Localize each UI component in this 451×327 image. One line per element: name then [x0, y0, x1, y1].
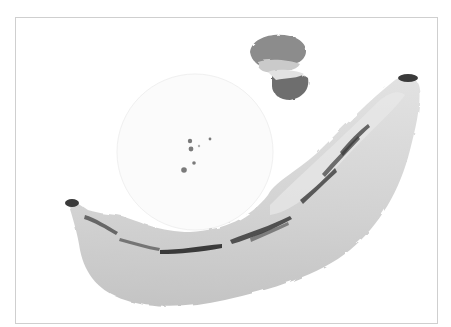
faint-circle-wash	[117, 74, 273, 230]
paint-blob	[250, 35, 308, 100]
banana-painting	[0, 0, 451, 327]
